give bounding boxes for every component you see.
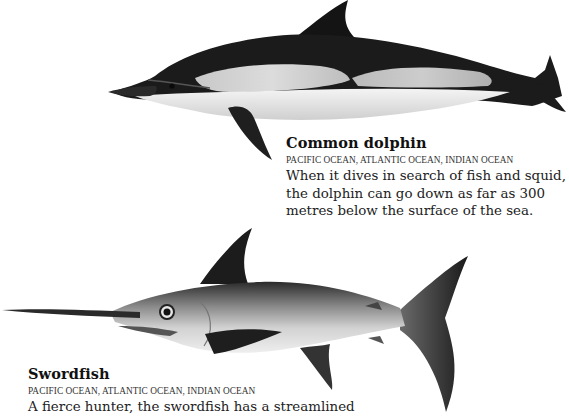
dolphin-description-line: the dolphin can go down as far as 300 xyxy=(286,185,566,203)
swordfish-name: Swordfish xyxy=(28,365,355,383)
dolphin-range: PACIFIC OCEAN, ATLANTIC OCEAN, INDIAN OC… xyxy=(286,154,566,167)
swordfish-caption: Swordfish PACIFIC OCEAN, ATLANTIC OCEAN,… xyxy=(28,365,355,416)
dolphin-description: When it dives in search of fish and squi… xyxy=(286,167,566,220)
dolphin-description-line: metres below the surface of the sea. xyxy=(286,202,566,220)
swordfish-description: A fierce hunter, the swordfish has a str… xyxy=(28,398,355,416)
dolphin-caption: Common dolphin PACIFIC OCEAN, ATLANTIC O… xyxy=(286,134,566,220)
dolphin-description-line: When it dives in search of fish and squi… xyxy=(286,167,566,185)
dolphin-name: Common dolphin xyxy=(286,134,566,152)
swordfish-description-line: A fierce hunter, the swordfish has a str… xyxy=(28,398,355,416)
swordfish-range: PACIFIC OCEAN, ATLANTIC OCEAN, INDIAN OC… xyxy=(28,385,355,398)
